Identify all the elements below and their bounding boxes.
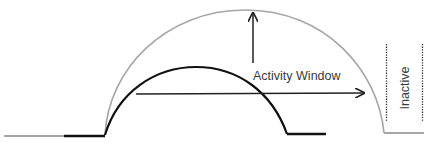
activity-window-label: Activity Window	[253, 69, 341, 83]
outer-activity-curve	[105, 10, 384, 135]
activity-window-diagram: Activity Window Inactive	[0, 0, 429, 144]
horizontal-arrow	[136, 93, 364, 94]
inactive-label: Inactive	[398, 66, 412, 109]
